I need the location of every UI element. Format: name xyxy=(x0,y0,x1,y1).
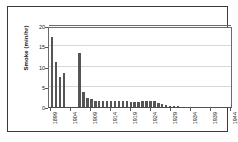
y-axis-tick-label: 20 xyxy=(11,24,45,30)
x-axis-tick-mark xyxy=(70,108,71,111)
bar[interactable] xyxy=(137,102,139,107)
y-axis: Smoke (min/hr) 05101520 xyxy=(8,7,45,142)
x-axis-tick-mark xyxy=(230,108,231,111)
x-axis-tick-label: 1924 xyxy=(152,112,158,138)
x-axis-tick-label: 1929 xyxy=(172,112,178,138)
bar[interactable] xyxy=(141,101,143,107)
x-axis-tick-mark xyxy=(170,108,171,111)
x-axis-tick-mark xyxy=(190,108,191,111)
y-axis-tick-label: 15 xyxy=(11,44,45,50)
x-axis-tick-mark xyxy=(130,108,131,111)
bar[interactable] xyxy=(51,37,53,107)
bar[interactable] xyxy=(133,102,135,107)
bar[interactable] xyxy=(122,101,124,107)
x-axis-tick-label: 1904 xyxy=(72,112,78,138)
bar[interactable] xyxy=(106,101,108,107)
bar[interactable] xyxy=(130,102,132,107)
x-axis-tick-label: 1939 xyxy=(212,112,218,138)
bar[interactable] xyxy=(86,98,88,107)
bar[interactable] xyxy=(102,101,104,107)
y-axis-tick-label: 5 xyxy=(11,85,45,91)
bar-slot xyxy=(227,28,231,107)
x-axis-tick-mark xyxy=(150,108,151,111)
bar[interactable] xyxy=(177,106,179,107)
bar[interactable] xyxy=(169,106,171,107)
figure: Smoke (min/hr) 05101520 1899190419091914… xyxy=(0,0,237,142)
x-axis-tick-label: 1899 xyxy=(52,112,58,138)
x-axis-tick-mark xyxy=(50,108,51,111)
bar[interactable] xyxy=(90,99,92,107)
bar[interactable] xyxy=(114,101,116,107)
figure-frame: Smoke (min/hr) 05101520 1899190419091914… xyxy=(7,6,228,132)
y-axis-tick-label: 0 xyxy=(11,105,45,111)
bar[interactable] xyxy=(173,106,175,107)
x-axis-tick-mark xyxy=(210,108,211,111)
bar[interactable] xyxy=(149,101,151,107)
x-axis-tick-label: 1914 xyxy=(112,112,118,138)
x-axis-tick-mark xyxy=(90,108,91,111)
bar[interactable] xyxy=(145,101,147,107)
x-axis-tick-mark xyxy=(110,108,111,111)
bar[interactable] xyxy=(94,101,96,107)
bar[interactable] xyxy=(110,101,112,107)
x-axis-tick-label: 1934 xyxy=(192,112,198,138)
bar[interactable] xyxy=(157,103,159,107)
bar[interactable] xyxy=(82,92,84,107)
x-axis-tick-label: 1944 xyxy=(232,112,237,138)
bar[interactable] xyxy=(98,101,100,107)
bar[interactable] xyxy=(161,104,163,107)
x-axis-tick-label: 1909 xyxy=(92,112,98,138)
bar[interactable] xyxy=(63,73,65,107)
plot-area xyxy=(48,27,232,108)
y-axis-tick-label: 10 xyxy=(11,65,45,71)
bar[interactable] xyxy=(78,53,80,107)
bar[interactable] xyxy=(153,101,155,107)
bar[interactable] xyxy=(55,62,57,107)
bar[interactable] xyxy=(165,105,167,107)
x-axis: 1899190419091914191919241929193419391944 xyxy=(48,108,232,142)
bar-series xyxy=(49,28,231,107)
bar[interactable] xyxy=(59,77,61,107)
x-axis-tick-label: 1919 xyxy=(132,112,138,138)
bar[interactable] xyxy=(118,101,120,107)
gridline xyxy=(49,25,231,26)
bar[interactable] xyxy=(126,101,128,107)
